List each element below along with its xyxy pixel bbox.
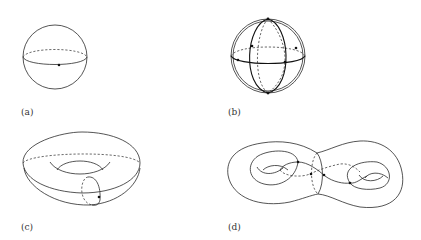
panel-a-sphere [23,25,87,89]
panel-label-a: (a) [21,107,33,117]
panel-label-b: (b) [228,107,241,117]
figure-canvas [0,0,421,240]
panel-label-d: (d) [228,222,241,232]
panel-b-sphere [231,18,305,95]
panel-c-torus [23,132,140,205]
panel-d-genus-two [228,141,403,208]
panel-label-c: (c) [21,222,33,232]
